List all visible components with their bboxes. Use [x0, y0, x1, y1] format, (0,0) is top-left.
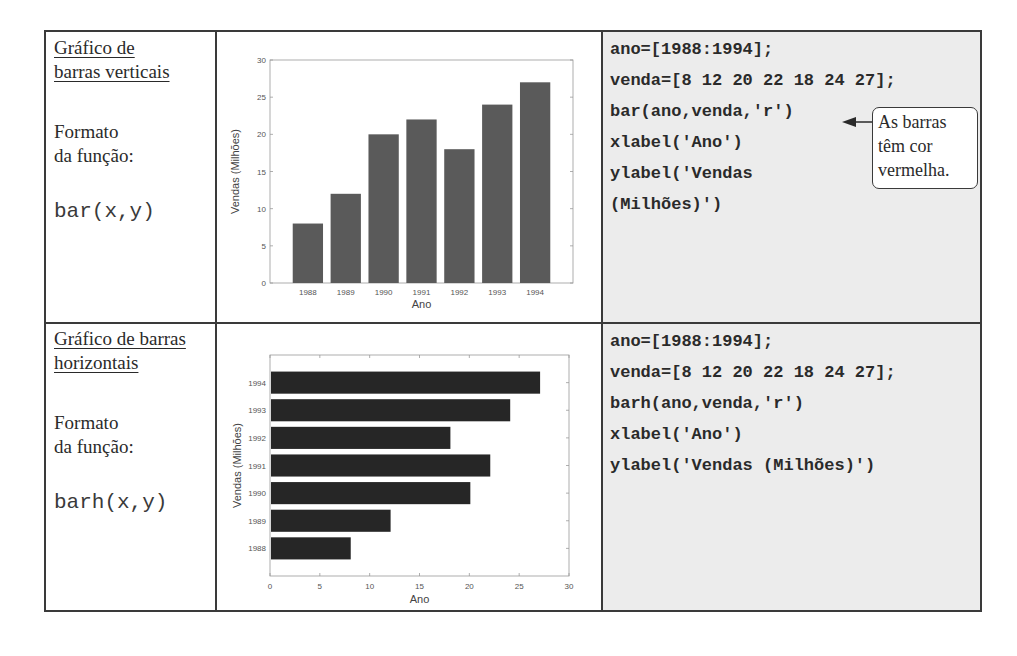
bar [368, 134, 398, 283]
x-axis-label: Ano [410, 593, 430, 605]
row-description-vertical: Gráfico debarras verticais Formatoda fun… [54, 36, 170, 224]
callout-line: têm cor [878, 134, 977, 158]
x-tick-label: 15 [415, 582, 424, 591]
bar [406, 119, 436, 283]
x-tick-label: 1993 [488, 288, 506, 297]
bar [271, 454, 490, 476]
callout-line: vermelha. [878, 158, 977, 182]
code-line: xlabel('Ano') [610, 127, 896, 158]
bar [331, 194, 361, 283]
y-tick-label: 0 [262, 279, 267, 288]
y-tick-label: 25 [257, 93, 266, 102]
y-tick-label: 1989 [248, 517, 266, 526]
bar [271, 537, 351, 559]
x-tick-label: 1990 [375, 288, 393, 297]
x-tick-label: 1991 [413, 288, 431, 297]
y-tick-label: 1994 [248, 379, 266, 388]
bar [271, 510, 391, 532]
horizontal-bar-chart: 0510152025301988198919901991199219931994… [217, 324, 601, 610]
y-tick-label: 20 [257, 130, 266, 139]
y-axis-label: Vendas (Milhões) [229, 129, 241, 214]
code-line: venda=[8 12 20 22 18 24 27]; [610, 65, 896, 96]
bar [482, 105, 512, 283]
x-axis-label: Ano [412, 298, 432, 310]
x-tick-label: 1988 [299, 288, 317, 297]
y-tick-label: 30 [257, 56, 266, 65]
bar [271, 399, 510, 421]
callout-line: As barras [878, 110, 977, 134]
x-tick-label: 20 [465, 582, 474, 591]
x-tick-label: 10 [365, 582, 374, 591]
y-tick-label: 1993 [248, 406, 266, 415]
x-tick-label: 25 [515, 582, 524, 591]
format-label: Formatoda função: [54, 120, 170, 168]
bar [444, 149, 474, 283]
format-label: Formatoda função: [54, 411, 186, 459]
y-axis-label: Vendas (Milhões) [231, 423, 243, 508]
x-tick-label: 30 [565, 582, 574, 591]
code-line: (Milhões)') [610, 189, 896, 220]
y-tick-label: 1992 [248, 434, 266, 443]
code-block-barh: ano=[1988:1994]; venda=[8 12 20 22 18 24… [610, 326, 896, 481]
code-line: barh(ano,venda,'r') [610, 388, 896, 419]
bar [271, 427, 450, 449]
code-line: ano=[1988:1994]; [610, 34, 896, 65]
row-title: Gráfico debarras verticais [54, 36, 170, 84]
x-tick-label: 1992 [450, 288, 468, 297]
bar [271, 372, 540, 394]
x-tick-label: 0 [268, 582, 273, 591]
y-tick-label: 1990 [248, 489, 266, 498]
y-tick-label: 1988 [248, 544, 266, 553]
x-tick-label: 1989 [337, 288, 355, 297]
bar [520, 82, 550, 283]
bar [293, 224, 323, 283]
x-tick-label: 1994 [526, 288, 544, 297]
y-tick-label: 10 [257, 205, 266, 214]
row-title: Gráfico de barrashorizontais [54, 327, 186, 375]
code-line: ano=[1988:1994]; [610, 326, 896, 357]
y-tick-label: 1991 [248, 462, 266, 471]
callout-arrow-icon [842, 115, 874, 129]
y-tick-label: 5 [262, 242, 267, 251]
function-signature: bar(x,y) [54, 200, 170, 224]
vertical-bar-chart: 0510152025301988198919901991199219931994… [217, 32, 601, 322]
code-line: ylabel('Vendas [610, 158, 896, 189]
row-description-horizontal: Gráfico de barrashorizontais Formatoda f… [54, 327, 186, 515]
y-tick-label: 15 [257, 168, 266, 177]
x-tick-label: 5 [318, 582, 323, 591]
function-signature: barh(x,y) [54, 491, 186, 515]
code-line: venda=[8 12 20 22 18 24 27]; [610, 357, 896, 388]
callout-note: As barras têm cor vermelha. [872, 107, 978, 189]
bar [271, 482, 470, 504]
code-line: ylabel('Vendas (Milhões)') [610, 450, 896, 481]
code-line: xlabel('Ano') [610, 419, 896, 450]
column-divider-2 [601, 32, 603, 610]
